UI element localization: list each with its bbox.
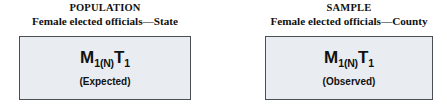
panel-sample-caption: (Observed) bbox=[323, 77, 376, 87]
panel-population-subtitle: Female elected officials—State bbox=[19, 15, 191, 28]
formula-term-1-subscript: 1(N) bbox=[338, 57, 358, 69]
panel-population-header: POPULATION Female elected officials—Stat… bbox=[19, 0, 191, 29]
panel-sample-subtitle: Female elected officials—County bbox=[265, 15, 433, 28]
formula-term-1-subscript: 1(N) bbox=[94, 57, 114, 69]
panel-population-title: POPULATION bbox=[19, 2, 191, 14]
panel-sample-formula: M1(N)T1 bbox=[324, 49, 374, 69]
panel-sample-title: SAMPLE bbox=[265, 2, 433, 14]
panel-sample-box: M1(N)T1 (Observed) bbox=[265, 36, 433, 100]
panel-population-formula: M1(N)T1 bbox=[80, 49, 130, 69]
formula-term-2-base: T bbox=[114, 48, 124, 67]
formula-term-1-base: M bbox=[324, 48, 338, 67]
formula-term-1-base: M bbox=[80, 48, 94, 67]
formula-term-2-subscript: 1 bbox=[368, 57, 374, 69]
panel-sample: SAMPLE Female elected officials—County M… bbox=[265, 0, 433, 107]
formula-term-2-base: T bbox=[358, 48, 368, 67]
panel-population-box: M1(N)T1 (Expected) bbox=[19, 36, 191, 100]
comparison-diagram: POPULATION Female elected officials—Stat… bbox=[0, 0, 447, 107]
formula-term-2-subscript: 1 bbox=[124, 57, 130, 69]
panel-sample-header: SAMPLE Female elected officials—County bbox=[265, 0, 433, 29]
panel-population-caption: (Expected) bbox=[79, 77, 130, 87]
panel-population: POPULATION Female elected officials—Stat… bbox=[19, 0, 191, 107]
